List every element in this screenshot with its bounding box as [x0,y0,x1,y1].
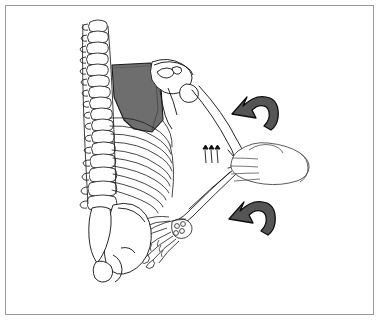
upper-curved-arrow [232,97,278,130]
pelvis [89,203,152,282]
rib-cage [110,118,174,213]
figure-root: Rhomboid muscle stretch — posterior skel… [0,0,381,322]
assisting-hand [230,143,309,185]
vertebral-column [80,20,117,211]
ulna [184,174,236,223]
anatomical-illustration [0,0,381,322]
lower-curved-arrow [229,202,275,235]
forearm-bones [179,167,238,223]
force-tick-marks [203,145,220,163]
